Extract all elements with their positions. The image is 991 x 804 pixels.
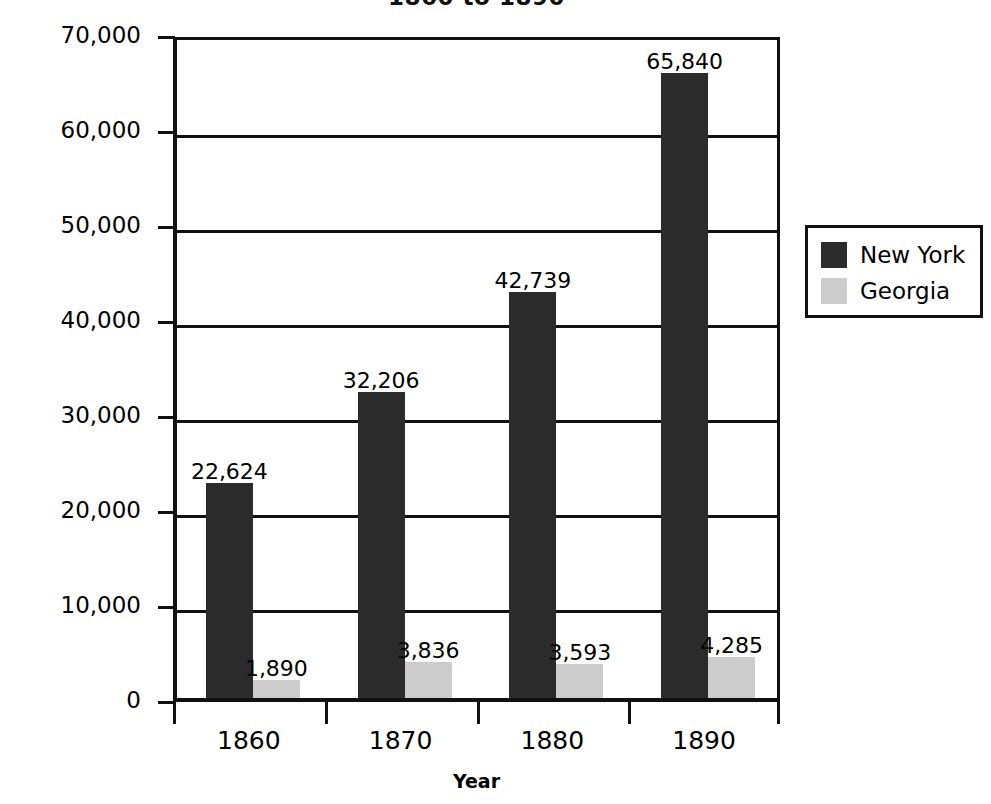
bar-value-label: 65,840 (646, 51, 723, 73)
y-axis-tick-label: 0 (6, 689, 141, 712)
legend-swatch-icon (821, 242, 847, 268)
y-axis-tick-label: 20,000 (6, 499, 141, 522)
bar (556, 664, 603, 698)
y-axis-tick-label: 70,000 (6, 24, 141, 47)
bar (708, 657, 755, 698)
y-axis-tick-label: 40,000 (6, 309, 141, 332)
chart-title: 1860 to 1890 (173, 0, 780, 10)
x-axis-label-group: 1860187018801890 (173, 726, 780, 764)
bar-value-label: 3,593 (548, 642, 611, 664)
legend-item[interactable]: Georgia (821, 273, 980, 309)
legend: New YorkGeorgia (805, 225, 983, 318)
bar-value-label: 22,624 (191, 461, 268, 483)
legend-swatch-icon (821, 278, 847, 304)
x-axis-tick-mark (477, 702, 480, 724)
x-axis-tick-label: 1860 (217, 726, 281, 756)
x-axis-tick-label: 1890 (672, 726, 736, 756)
legend-label: Georgia (860, 280, 950, 303)
y-axis-tick-label: 50,000 (6, 214, 141, 237)
bar-value-label: 42,739 (494, 270, 571, 292)
x-axis-tick-mark (628, 702, 631, 724)
bar (253, 680, 300, 698)
bar (661, 73, 708, 698)
bar-value-label: 32,206 (343, 370, 420, 392)
x-axis-title: Year (173, 770, 780, 792)
bar (405, 662, 452, 698)
x-axis-tick-mark (173, 702, 176, 724)
y-axis-tick-label: 60,000 (6, 119, 141, 142)
x-axis-tick-mark (777, 702, 780, 724)
x-axis-tick-mark (325, 702, 328, 724)
chart-figure: 1860 to 1890 Number of Factories 010,000… (0, 0, 991, 804)
bar-value-label: 3,836 (397, 640, 460, 662)
legend-label: New York (860, 244, 965, 267)
y-axis-tick-group: 010,00020,00030,00040,00050,00060,00070,… (0, 37, 173, 702)
x-axis-tick-label: 1870 (369, 726, 433, 756)
bar-value-label: 4,285 (700, 635, 763, 657)
legend-item[interactable]: New York (821, 237, 980, 273)
y-axis-tick-label: 10,000 (6, 594, 141, 617)
plot-area: 22,6241,89032,2063,83642,7393,59365,8404… (173, 37, 780, 702)
y-axis-tick-label: 30,000 (6, 404, 141, 427)
x-axis-tick-label: 1880 (521, 726, 585, 756)
bar-value-label: 1,890 (245, 658, 308, 680)
bar (509, 292, 556, 698)
